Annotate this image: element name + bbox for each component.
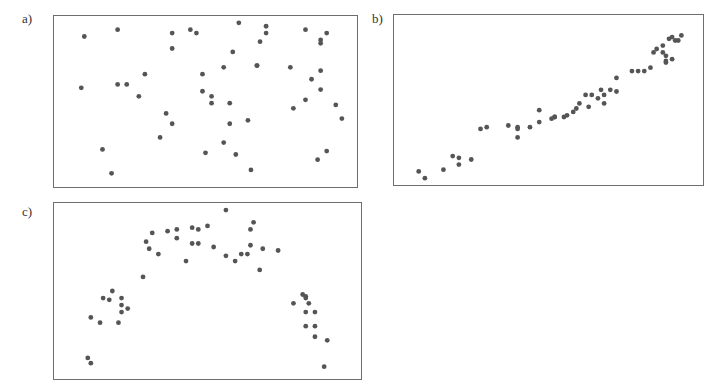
- data-point: [506, 123, 511, 128]
- data-point: [565, 113, 570, 118]
- data-point: [98, 320, 103, 325]
- data-point: [203, 150, 208, 155]
- data-point: [88, 361, 93, 366]
- data-point: [528, 125, 533, 130]
- data-point: [309, 77, 314, 82]
- data-point: [110, 289, 115, 294]
- data-point: [144, 239, 149, 244]
- data-point: [150, 231, 155, 236]
- data-point: [574, 106, 579, 111]
- data-point: [537, 120, 542, 125]
- data-point: [209, 101, 214, 106]
- data-point: [200, 89, 205, 94]
- data-point: [478, 127, 483, 132]
- data-point: [303, 310, 308, 315]
- data-point: [260, 246, 265, 251]
- data-point: [291, 301, 296, 306]
- data-point: [315, 157, 320, 162]
- data-point: [423, 176, 428, 181]
- data-point: [82, 34, 87, 39]
- data-point: [339, 116, 344, 121]
- data-point: [85, 355, 90, 360]
- data-point: [184, 259, 189, 264]
- data-point: [325, 338, 330, 343]
- data-point: [156, 252, 161, 257]
- data-point: [221, 65, 226, 70]
- data-point: [322, 364, 327, 369]
- data-point: [664, 60, 669, 65]
- data-point: [170, 46, 175, 51]
- data-point: [441, 167, 446, 172]
- data-point: [188, 27, 193, 32]
- data-point: [450, 154, 455, 159]
- data-point: [456, 155, 461, 160]
- panel-c-label: c): [22, 204, 32, 220]
- data-point: [648, 65, 653, 70]
- data-point: [484, 125, 489, 130]
- data-point: [109, 171, 114, 176]
- data-point: [165, 229, 170, 234]
- data-point: [255, 63, 260, 68]
- data-point: [670, 57, 675, 62]
- scatterplot-a: [53, 15, 358, 188]
- data-point: [303, 324, 308, 329]
- data-point: [660, 43, 665, 48]
- data-point: [100, 147, 105, 152]
- data-point: [515, 135, 520, 140]
- data-point: [170, 31, 175, 36]
- data-point: [456, 162, 461, 167]
- data-point: [636, 69, 641, 74]
- data-point: [194, 31, 199, 36]
- scatterplot-c: [53, 202, 362, 380]
- data-point: [664, 53, 669, 58]
- data-point: [249, 168, 254, 173]
- data-point: [318, 41, 323, 46]
- data-point: [115, 82, 120, 87]
- data-point: [248, 227, 253, 232]
- data-point: [676, 38, 681, 43]
- scatterplot-c-points: [54, 203, 361, 379]
- data-point: [291, 106, 296, 111]
- data-point: [602, 93, 607, 98]
- panel-a-label: a): [22, 11, 32, 27]
- data-point: [288, 65, 293, 70]
- data-point: [515, 127, 520, 132]
- data-point: [313, 310, 318, 315]
- data-point: [303, 97, 308, 102]
- data-point: [679, 33, 684, 38]
- data-point: [264, 31, 269, 36]
- data-point: [318, 68, 323, 73]
- panel-b-label: b): [372, 11, 383, 27]
- data-point: [264, 24, 269, 29]
- data-point: [313, 324, 318, 329]
- data-point: [141, 275, 146, 280]
- data-point: [469, 157, 474, 162]
- data-point: [164, 111, 169, 116]
- data-point: [537, 108, 542, 113]
- data-point: [147, 246, 152, 251]
- data-point: [602, 101, 607, 106]
- data-point: [303, 296, 308, 301]
- data-point: [116, 320, 121, 325]
- data-point: [224, 208, 229, 213]
- data-point: [245, 252, 250, 257]
- data-point: [221, 140, 226, 145]
- data-point: [174, 236, 179, 241]
- data-point: [599, 87, 604, 92]
- data-point: [614, 89, 619, 94]
- data-point: [258, 39, 263, 44]
- data-point: [318, 87, 323, 92]
- data-point: [306, 301, 311, 306]
- data-point: [107, 297, 112, 302]
- data-point: [196, 227, 201, 232]
- data-point: [196, 241, 201, 246]
- data-point: [124, 82, 129, 87]
- data-point: [416, 169, 421, 174]
- data-point: [642, 69, 647, 74]
- data-point: [313, 334, 318, 339]
- data-point: [614, 76, 619, 81]
- data-point: [552, 115, 557, 120]
- data-point: [596, 96, 601, 101]
- data-point: [101, 296, 106, 301]
- data-point: [143, 72, 148, 77]
